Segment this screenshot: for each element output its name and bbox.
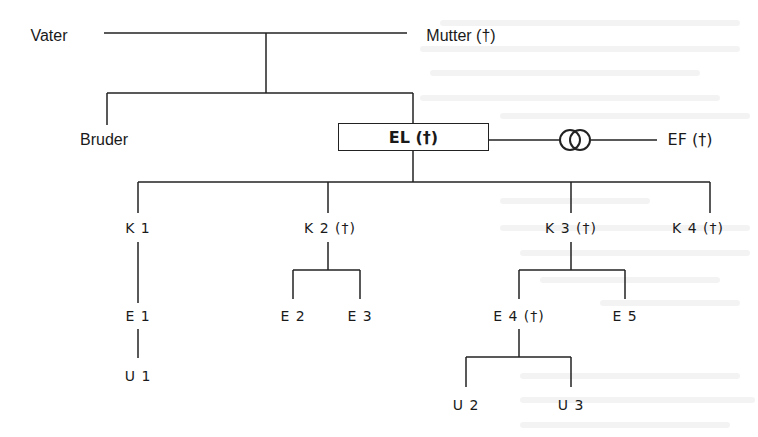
great-grandchild-u1-label: U 1 — [125, 367, 152, 385]
grandchild-e2-label: E 2 — [280, 307, 305, 325]
mother-label: Mutter (†) — [426, 27, 495, 45]
spouse-label: EF (†) — [668, 131, 713, 149]
great-grandchild-u2-label: U 2 — [453, 396, 480, 414]
family-tree-diagram: Vater Mutter (†) Bruder EL (†) EF (†) K … — [0, 0, 758, 437]
child-k2-label: K 2 (†) — [304, 219, 356, 237]
child-k1-label: K 1 — [125, 219, 151, 237]
great-grandchild-u3-label: U 3 — [558, 396, 585, 414]
child-k4-label: K 4 (†) — [672, 219, 724, 237]
grandchild-e5-label: E 5 — [612, 307, 637, 325]
el-label: EL (†) — [389, 128, 438, 147]
grandchild-e3-label: E 3 — [347, 307, 372, 325]
father-label: Vater — [30, 27, 67, 45]
connector-lines — [0, 0, 758, 437]
brother-label: Bruder — [80, 131, 128, 149]
grandchild-e4-label: E 4 (†) — [493, 307, 545, 325]
marriage-rings-icon — [560, 130, 590, 150]
el-highlight-box: EL (†) — [338, 123, 489, 151]
grandchild-e1-label: E 1 — [125, 307, 150, 325]
child-k3-label: K 3 (†) — [545, 219, 597, 237]
